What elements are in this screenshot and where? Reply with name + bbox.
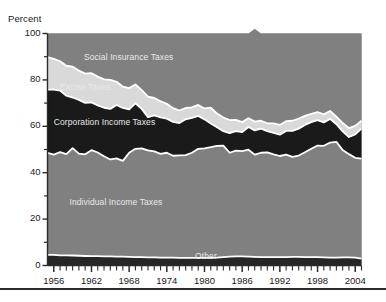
series-annotation: Corporation Income Taxes — [54, 117, 155, 127]
x-tick-label: 1980 — [185, 275, 225, 286]
series-annotation: Individual Income Taxes — [69, 197, 162, 207]
y-tick-label: 80 — [15, 73, 41, 84]
page-bottom-rule — [0, 288, 386, 290]
x-tick-label: 1998 — [298, 275, 338, 286]
y-tick-label: 20 — [15, 212, 41, 223]
x-tick-label: 1974 — [147, 275, 187, 286]
x-tick-label: 1968 — [109, 275, 149, 286]
y-tick-label: 40 — [15, 166, 41, 177]
x-tick-label: 1986 — [222, 275, 262, 286]
y-tick-label: 0 — [15, 259, 41, 270]
x-tick-label: 1956 — [34, 275, 74, 286]
x-tick-label: 1992 — [260, 275, 300, 286]
series-annotation: Social Insurance Taxes — [84, 52, 173, 62]
series-annotation: Excise Taxes — [60, 82, 111, 92]
x-tick-label: 1962 — [71, 275, 111, 286]
stacked-area-plot — [0, 0, 386, 302]
y-tick-label: 60 — [15, 119, 41, 130]
chart-figure: Percent 02040608010019561962196819741980… — [0, 0, 386, 302]
y-tick-label: 100 — [15, 27, 41, 38]
series-annotation: Other — [195, 251, 217, 261]
x-tick-label: 2004 — [335, 275, 375, 286]
